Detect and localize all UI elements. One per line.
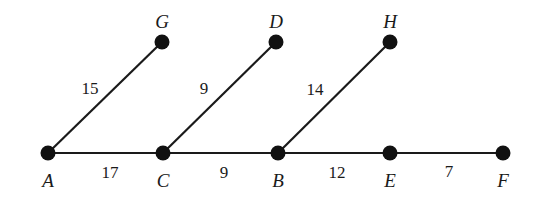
vertex-B <box>271 146 286 161</box>
vertex-H <box>383 35 398 50</box>
graph-diagram: 15914179127 ACBEFGDH <box>0 0 539 210</box>
vertex-label-C: C <box>157 170 170 191</box>
vertex-label-E: E <box>383 170 396 191</box>
edge-weight-A-G: 15 <box>82 79 99 98</box>
edge-weight-A-C: 17 <box>102 163 120 182</box>
vertex-D <box>269 35 284 50</box>
vertex-label-A: A <box>40 170 54 191</box>
vertex-E <box>383 146 398 161</box>
vertex-A <box>41 146 56 161</box>
edge-weight-C-B: 9 <box>220 163 229 182</box>
edge-B-H <box>278 42 390 153</box>
vertex-C <box>156 146 171 161</box>
vertex-label-H: H <box>382 11 398 32</box>
edge-weight-E-F: 7 <box>445 162 454 181</box>
edge-weight-C-D: 9 <box>200 79 209 98</box>
vertex-G <box>155 35 170 50</box>
vertex-label-B: B <box>272 170 284 191</box>
edge-A-G <box>48 42 162 153</box>
edge-weight-B-E: 12 <box>329 163 346 182</box>
vertex-label-D: D <box>268 11 283 32</box>
vertex-F <box>496 146 511 161</box>
vertex-label-G: G <box>155 11 169 32</box>
edge-C-D <box>163 42 276 153</box>
edge-weights-layer: 15914179127 <box>82 79 454 182</box>
nodes-layer <box>41 35 511 161</box>
edge-weight-B-H: 14 <box>307 80 325 99</box>
vertex-label-F: F <box>496 170 509 191</box>
edges-layer <box>48 42 503 153</box>
